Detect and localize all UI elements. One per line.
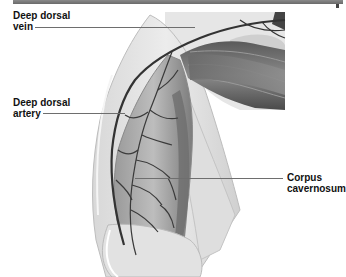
label-line: cavernosum — [287, 183, 346, 194]
label-line: Deep dorsal — [13, 10, 70, 21]
label-line: Deep dorsal — [13, 97, 70, 108]
label-corpus-cavernosum: Corpus cavernosum — [287, 172, 346, 194]
label-deep-dorsal-vein: Deep dorsal vein — [13, 10, 70, 32]
label-deep-dorsal-artery: Deep dorsal artery — [13, 97, 70, 119]
leader-line-deep-dorsal-artery — [43, 113, 125, 114]
leader-line-corpus-cavernosum — [135, 178, 283, 179]
leader-line-deep-dorsal-vein — [35, 27, 195, 28]
label-line: Corpus — [287, 172, 346, 183]
